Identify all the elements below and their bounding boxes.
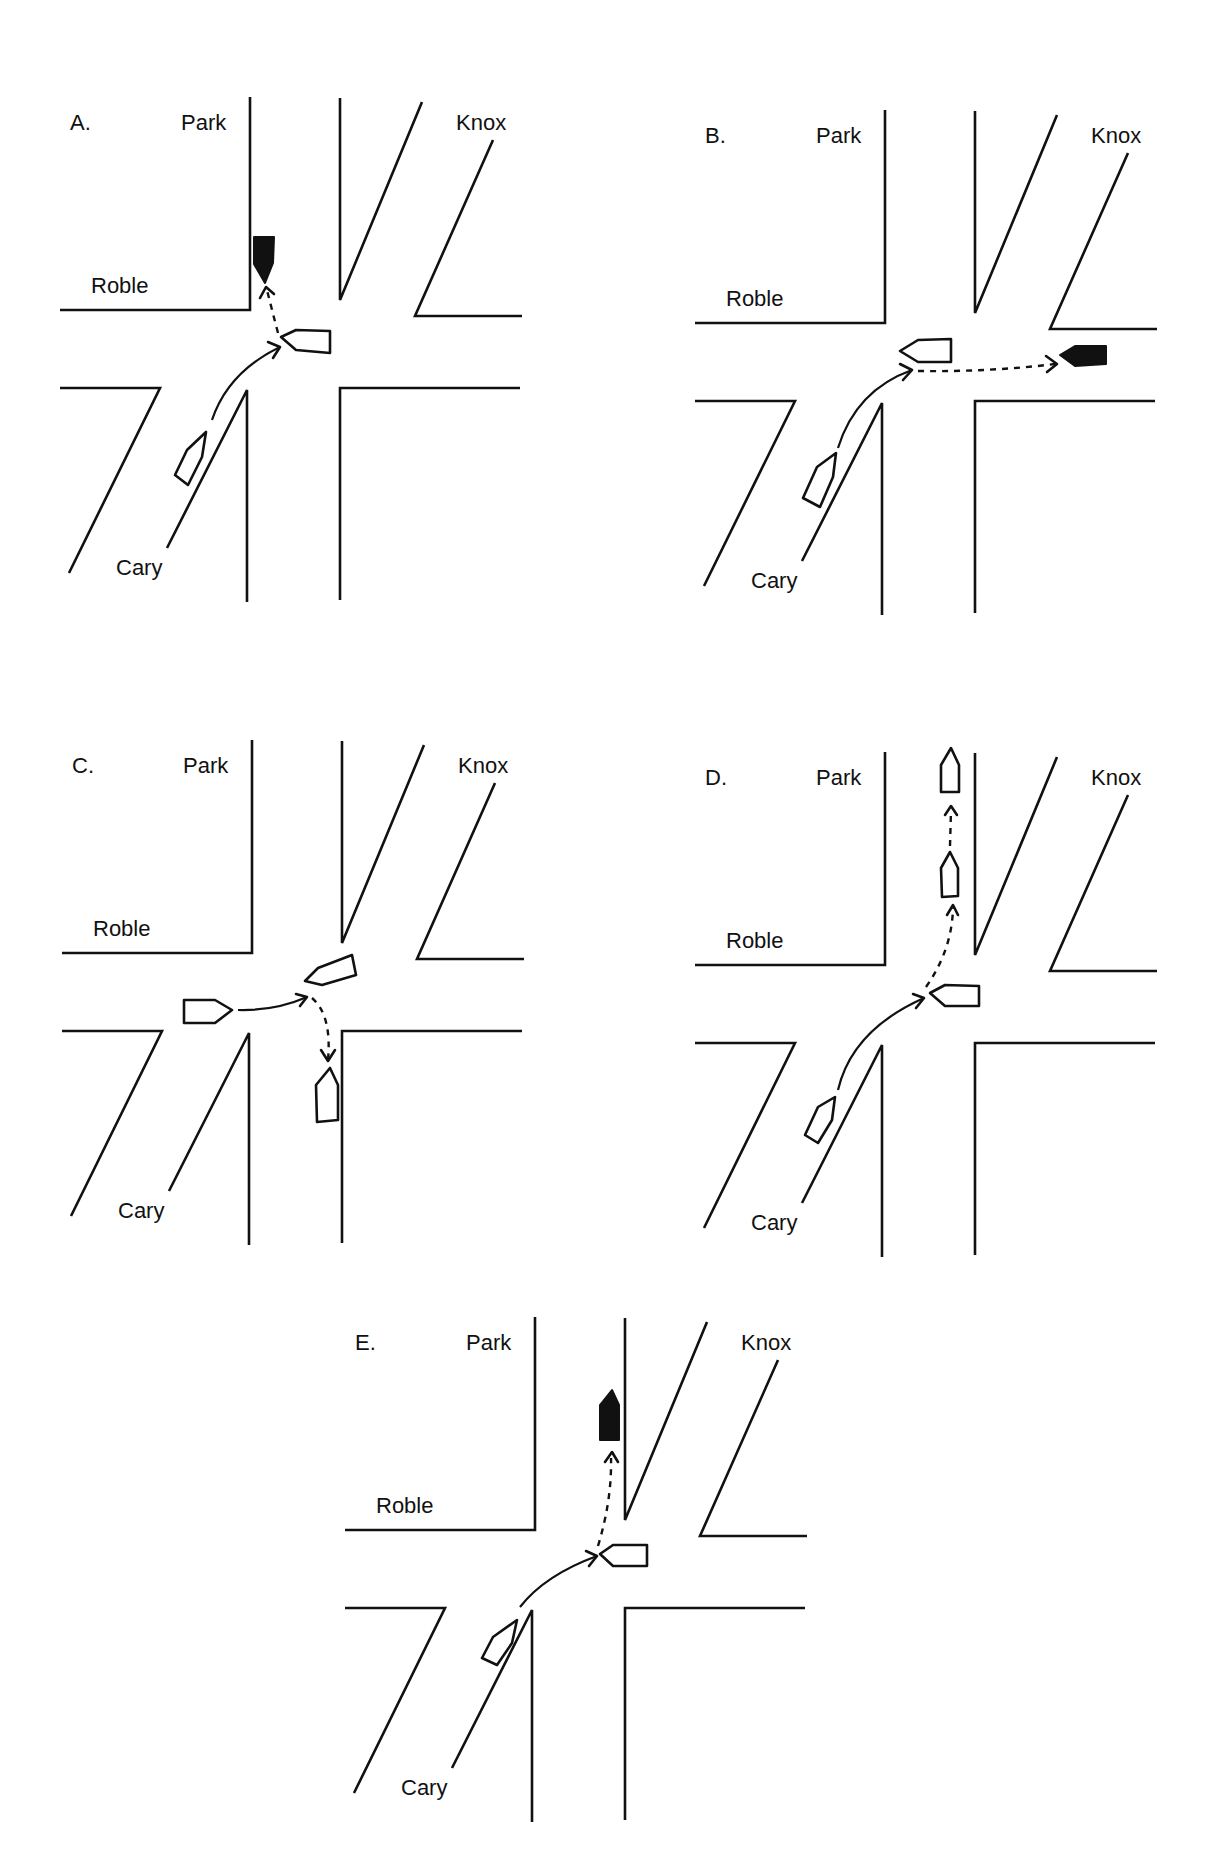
street-label-park: Park bbox=[816, 123, 862, 148]
street-label-cary: Cary bbox=[116, 555, 162, 580]
intersection-diagram-figure: A.ParkKnoxRobleCaryB.ParkKnoxRobleCaryC.… bbox=[0, 0, 1226, 1874]
street-label-park: Park bbox=[466, 1330, 512, 1355]
street-label-park: Park bbox=[181, 110, 227, 135]
street-label-roble: Roble bbox=[726, 928, 783, 953]
street-label-knox: Knox bbox=[741, 1330, 791, 1355]
street-label-park: Park bbox=[183, 753, 229, 778]
panel-label: E. bbox=[355, 1330, 376, 1355]
street-label-knox: Knox bbox=[1091, 123, 1141, 148]
panel-label: D. bbox=[705, 765, 727, 790]
street-label-park: Park bbox=[816, 765, 862, 790]
street-label-roble: Roble bbox=[93, 916, 150, 941]
panel-label: B. bbox=[705, 123, 726, 148]
street-label-cary: Cary bbox=[118, 1198, 164, 1223]
street-label-cary: Cary bbox=[751, 568, 797, 593]
panel-label: A. bbox=[70, 110, 91, 135]
street-label-knox: Knox bbox=[456, 110, 506, 135]
street-label-roble: Roble bbox=[376, 1493, 433, 1518]
street-label-cary: Cary bbox=[401, 1775, 447, 1800]
panel-label: C. bbox=[72, 753, 94, 778]
street-label-knox: Knox bbox=[1091, 765, 1141, 790]
street-label-roble: Roble bbox=[91, 273, 148, 298]
street-label-knox: Knox bbox=[458, 753, 508, 778]
street-label-roble: Roble bbox=[726, 286, 783, 311]
page-background bbox=[0, 0, 1226, 1874]
street-label-cary: Cary bbox=[751, 1210, 797, 1235]
